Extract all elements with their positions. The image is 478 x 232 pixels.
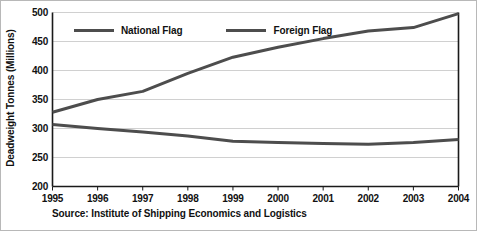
legend-swatch-icon <box>74 29 114 32</box>
legend-label: Foreign Flag <box>273 25 332 36</box>
source-note: Source: Institute of Shipping Economics … <box>52 208 307 219</box>
legend-entry: National Flag <box>74 25 182 36</box>
series-line-national-flag <box>53 124 459 144</box>
chart-container: Deadweight Tonnes (Millions) 20025030035… <box>0 0 478 232</box>
legend-swatch-icon <box>226 29 266 32</box>
chart-legend: National FlagForeign Flag <box>74 25 332 36</box>
legend-entry: Foreign Flag <box>226 25 332 36</box>
legend-label: National Flag <box>121 25 182 36</box>
